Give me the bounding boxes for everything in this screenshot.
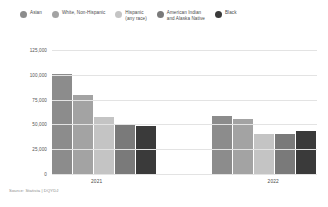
y-axis-tick-label: 25,000 — [32, 147, 47, 152]
bar-group-2022: 2022 — [185, 50, 318, 174]
legend-item-3[interactable]: American Indian and Alaska Native — [157, 10, 205, 22]
bar-groups: 20212022 — [52, 50, 317, 174]
y-axis-tick-label: 125,000 — [30, 48, 47, 53]
legend-item-4[interactable]: Black — [215, 10, 237, 18]
bar[interactable] — [233, 119, 253, 174]
y-axis-tick-label: 50,000 — [32, 122, 47, 127]
legend-label: White, Non-Hispanic — [62, 10, 105, 16]
legend-swatch-icon — [20, 11, 27, 18]
plot-area: 20212022 125,000100,00075,00050,00025,00… — [52, 50, 317, 174]
bar[interactable] — [136, 126, 156, 174]
y-axis-tick-label: 0 — [44, 172, 47, 177]
gridline — [52, 100, 317, 101]
legend-label: Hispanic (any race) — [125, 10, 146, 22]
legend-swatch-icon — [215, 11, 222, 18]
bar[interactable] — [275, 134, 295, 174]
y-axis-tick-label: 75,000 — [32, 97, 47, 102]
x-axis-tick-label: 2021 — [91, 179, 102, 185]
legend-item-1[interactable]: White, Non-Hispanic — [52, 10, 105, 18]
gridline — [52, 149, 317, 150]
legend-label: American Indian and Alaska Native — [167, 10, 205, 22]
bar[interactable] — [296, 131, 316, 174]
gridline — [52, 75, 317, 76]
gridline — [52, 50, 317, 51]
gridline — [52, 174, 317, 175]
x-axis-tick-label: 2022 — [268, 179, 279, 185]
legend-swatch-icon — [52, 11, 59, 18]
legend-swatch-icon — [157, 11, 164, 18]
legend-swatch-icon — [115, 11, 122, 18]
y-axis-tick-label: 100,000 — [30, 72, 47, 77]
bar[interactable] — [73, 95, 93, 174]
bar-chart-card: AsianWhite, Non-HispanicHispanic (any ra… — [0, 0, 328, 207]
chart-legend: AsianWhite, Non-HispanicHispanic (any ra… — [20, 10, 320, 22]
legend-item-0[interactable]: Asian — [20, 10, 42, 18]
source-caption: Source: Statista | DQYDJ — [9, 188, 59, 194]
bar-group-2021: 2021 — [52, 50, 185, 174]
bar[interactable] — [254, 134, 274, 174]
bar[interactable] — [94, 117, 114, 174]
legend-label: Black — [225, 10, 237, 16]
gridline — [52, 124, 317, 125]
legend-label: Asian — [30, 10, 42, 16]
legend-item-2[interactable]: Hispanic (any race) — [115, 10, 146, 22]
